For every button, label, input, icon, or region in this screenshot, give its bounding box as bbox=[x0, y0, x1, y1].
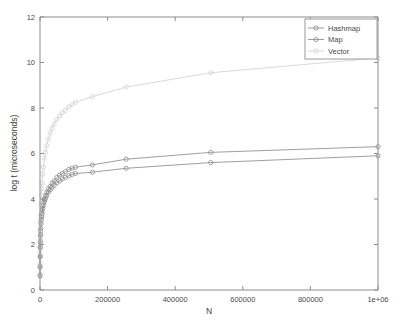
x-tick-label: 800000 bbox=[298, 295, 323, 304]
legend-label: Hashmap bbox=[328, 24, 360, 33]
y-tick-label: 8 bbox=[31, 104, 35, 113]
y-tick-label: 12 bbox=[27, 13, 35, 22]
x-tick-label: 1e+06 bbox=[367, 295, 388, 304]
x-tick-label: 400000 bbox=[163, 295, 188, 304]
y-tick-label: 2 bbox=[31, 240, 35, 249]
chart-legend[interactable]: HashmapMapVector bbox=[305, 19, 377, 59]
y-tick-label: 10 bbox=[27, 58, 35, 67]
y-tick-label: 0 bbox=[31, 286, 35, 295]
y-axis-title: log t (microseconds) bbox=[9, 115, 19, 192]
x-tick-label: 600000 bbox=[230, 295, 255, 304]
x-axis-title: N bbox=[206, 306, 212, 316]
chart-plot-svg: 02000004000006000008000001e+06 024681012… bbox=[0, 0, 402, 324]
legend-label: Vector bbox=[328, 47, 350, 56]
legend-label: Map bbox=[328, 35, 343, 44]
chart-figure: 02000004000006000008000001e+06 024681012… bbox=[0, 0, 402, 324]
y-tick-label: 4 bbox=[31, 195, 35, 204]
x-tick-label: 0 bbox=[38, 295, 42, 304]
x-tick-label: 200000 bbox=[95, 295, 120, 304]
y-tick-label: 6 bbox=[31, 149, 35, 158]
